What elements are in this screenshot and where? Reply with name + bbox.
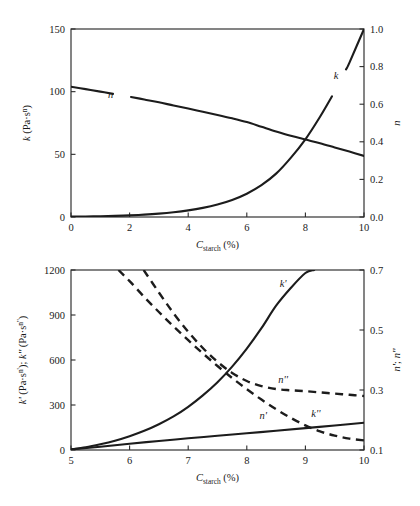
chart-panel-top: 02468100501001500.00.20.40.60.81.0knCsta…	[0, 0, 420, 253]
y-left-tick-label: 0	[60, 212, 65, 223]
top-chart-svg: 02468100501001500.00.20.40.60.81.0knCsta…	[0, 0, 420, 253]
curve-label-k: k	[334, 70, 339, 81]
bottom-plot-area: 5678910030060090012000.10.30.50.7k'k''n'…	[16, 265, 402, 486]
bottom-chart-svg: 5678910030060090012000.10.30.50.7k'k''n'…	[0, 253, 420, 506]
k-unit-close: )	[21, 104, 33, 108]
x-tick-label: 5	[68, 455, 73, 466]
x-tick-label: 8	[244, 455, 249, 466]
y-left-tick-label: 150	[49, 24, 65, 35]
x-tick-label: 0	[68, 222, 73, 233]
curve-k	[71, 96, 332, 216]
x-tick-label: 9	[303, 455, 308, 466]
k-prime-unit-open: (Pa·s	[17, 373, 29, 395]
y-right-tick-label: 0.1	[370, 445, 383, 456]
n-symbol: n	[391, 120, 402, 125]
y-right-tick-label: 0.3	[370, 385, 383, 396]
curve-k	[346, 29, 364, 69]
y-right-tick-label: 0.5	[370, 325, 383, 336]
k-unit-open: (Pa·s	[21, 112, 33, 134]
y-axis-right-title: n	[391, 120, 402, 125]
x-tick-label: 6	[244, 222, 249, 233]
curves-group	[71, 29, 364, 217]
curves-group	[71, 270, 364, 449]
curve-label-k-double-prime: k''	[311, 408, 321, 419]
k-double-prime-unit-open: (Pa·s	[17, 326, 29, 348]
x-tick-label: 4	[186, 222, 192, 233]
x-tick-label: 10	[359, 455, 370, 466]
k-double-prime-symbol: k''	[17, 347, 28, 359]
x-tick-label: 6	[127, 455, 132, 466]
y-left-tick-label: 600	[49, 355, 65, 366]
y-right-tick-label: 0.8	[370, 61, 383, 72]
y-right-tick-label: 0.0	[370, 212, 383, 223]
bottom-plot-frame	[71, 270, 364, 450]
x-axis-title-sub: starch	[203, 477, 221, 486]
top-plot-area: 02468100501001500.00.20.40.60.81.0knCsta…	[20, 24, 402, 253]
top-plot-frame	[71, 29, 364, 217]
x-axis-title: Cstarch (%)	[196, 239, 240, 253]
x-axis-title-sub: starch	[203, 244, 221, 253]
y-axis-left-title: k' (Pa·sn'); k'' (Pa·sn'')	[16, 315, 29, 404]
y-right-tick-label: 1.0	[370, 24, 383, 35]
x-tick-label: 8	[303, 222, 308, 233]
x-tick-label: 10	[359, 222, 370, 233]
y-left-tick-label: 50	[55, 149, 66, 160]
curve-label-n-prime: n'	[259, 410, 267, 421]
y-axis-right-title: n'; n''	[391, 348, 402, 372]
y-right-tick-label: 0.4	[370, 136, 384, 147]
x-tick-label: 2	[127, 222, 132, 233]
curve-label-n-double-prime: n''	[278, 374, 288, 385]
n-double-prime-symbol: n''	[391, 348, 402, 358]
y-left-tick-label: 0	[60, 445, 65, 456]
x-tick-label: 7	[186, 455, 191, 466]
y-right-tick-label: 0.7	[370, 265, 383, 276]
y-left-tick-label: 100	[49, 86, 65, 97]
curve-n-double-prime	[144, 270, 364, 396]
figure-root: 02468100501001500.00.20.40.60.81.0knCsta…	[0, 0, 420, 506]
curve-k-double-prime	[71, 423, 364, 450]
y-left-tick-label: 300	[49, 400, 65, 411]
k-symbol: k	[21, 134, 32, 141]
x-axis-title-unit: (%)	[221, 472, 240, 484]
x-axis-title: Cstarch (%)	[196, 472, 240, 486]
y-right-tick-label: 0.2	[370, 174, 383, 185]
curve-k-prime	[71, 270, 314, 449]
curve-label-n: n	[108, 89, 113, 100]
y-left-tick-label: 1200	[44, 265, 65, 276]
x-axis-title-unit: (%)	[221, 239, 240, 251]
y-axis-left-title: k (Pa·sn)	[20, 104, 33, 141]
curve-n	[131, 97, 364, 156]
y-right-tick-label: 0.6	[370, 99, 383, 110]
chart-panel-bottom: 5678910030060090012000.10.30.50.7k'k''n'…	[0, 253, 420, 506]
curve-n	[71, 87, 113, 94]
k-double-prime-unit-close: )	[17, 315, 29, 319]
curve-label-k-prime: k'	[280, 278, 288, 289]
y-left-tick-label: 900	[49, 310, 65, 321]
k-prime-symbol: k'	[17, 395, 28, 405]
